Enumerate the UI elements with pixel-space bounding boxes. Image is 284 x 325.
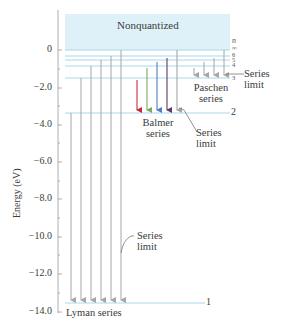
tick-label-0: 0 xyxy=(12,44,52,55)
tick-label-minus4: −4.0 xyxy=(12,119,52,130)
balmer-limit-line2: limit xyxy=(196,138,222,149)
tick-label-minus10: −10.0 xyxy=(12,231,52,242)
tick-label-minus6: −6.0 xyxy=(12,156,52,167)
paschen-label-line2: series xyxy=(189,93,233,104)
lyman-series-arrows xyxy=(71,50,121,300)
tick-label-minus14: −14.0 xyxy=(12,306,52,317)
balmer-limit-line1: Series xyxy=(196,127,222,138)
paschen-label-line1: Paschen xyxy=(189,82,233,93)
lyman-series-limit-label: Series limit xyxy=(137,230,163,252)
balmer-label-line2: series xyxy=(138,128,178,139)
n4-label: 4 xyxy=(232,62,235,69)
balmer-label-line1: Balmer xyxy=(138,117,178,128)
lyman-series-label: Lyman series xyxy=(66,307,122,318)
lyman-limit-line1: Series xyxy=(137,230,163,241)
n3-label: 3 xyxy=(232,75,235,82)
paschen-series-arrows xyxy=(194,50,224,75)
paschen-series-label: Paschen series xyxy=(189,82,233,104)
balmer-series-label: Balmer series xyxy=(138,117,178,139)
tick-label-minus2: −2.0 xyxy=(12,82,52,93)
paschen-limit-line1: Series xyxy=(244,68,270,79)
balmer-series-limit-label: Series limit xyxy=(196,127,222,149)
tick-label-minus12: −12.0 xyxy=(12,268,52,279)
n1-label: 1 xyxy=(206,297,211,308)
y-axis-label: Energy (eV) xyxy=(12,168,23,218)
balmer-series-arrows xyxy=(137,50,177,110)
paschen-limit-line2: limit xyxy=(244,79,270,90)
lyman-limit-line2: limit xyxy=(137,241,163,252)
paschen-series-limit-label: Series limit xyxy=(244,68,270,90)
nonquantized-label: Nonquantized xyxy=(117,20,179,32)
y-axis xyxy=(58,10,62,313)
n2-label: 2 xyxy=(231,107,236,118)
